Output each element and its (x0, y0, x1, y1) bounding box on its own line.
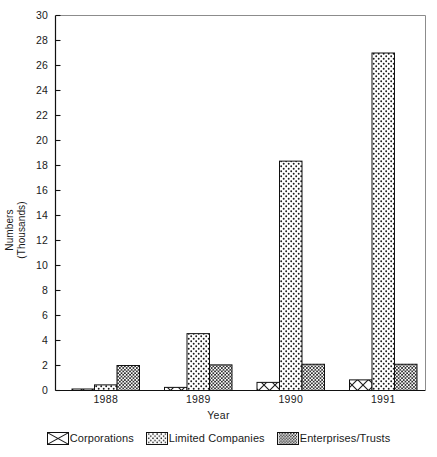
legend-swatch-limited-companies (146, 432, 168, 445)
x-tick-label: 1988 (76, 394, 136, 405)
y-tick-label: 20 (26, 135, 48, 146)
y-tick-label: 22 (26, 110, 48, 121)
bar-enterprises-trusts-1988 (117, 366, 140, 391)
y-axis-ticks (56, 16, 61, 391)
y-tick-label: 8 (26, 285, 48, 296)
bar-series-group (72, 53, 417, 391)
y-tick-label: 24 (26, 85, 48, 96)
x-tick-label: 1990 (261, 394, 321, 405)
legend-label-enterprises-trusts: Enterprises/Trusts (299, 432, 391, 445)
y-tick-label: 0 (26, 385, 48, 396)
axis-frame (56, 16, 426, 391)
bar-enterprises-trusts-1989 (210, 365, 233, 391)
legend-label-corporations: Corporations (69, 432, 134, 445)
bar-enterprises-trusts-1991 (395, 364, 418, 390)
y-tick-label: 4 (26, 335, 48, 346)
y-tick-label: 26 (26, 60, 48, 71)
y-tick-label: 30 (26, 10, 48, 21)
legend-swatch-enterprises-trusts (277, 432, 299, 445)
y-tick-label: 2 (26, 360, 48, 371)
bar-enterprises-trusts-1990 (302, 364, 325, 390)
legend-label-limited-companies: Limited Companies (168, 432, 265, 445)
y-tick-label: 18 (26, 160, 48, 171)
legend-item-limited-companies: Limited Companies (146, 432, 265, 445)
x-axis-title: Year (0, 409, 437, 421)
y-tick-label: 6 (26, 310, 48, 321)
bar-limited-companies-1991 (372, 53, 395, 391)
y-tick-label: 14 (26, 210, 48, 221)
bar-corporations-1991 (350, 380, 373, 391)
y-tick-label: 16 (26, 185, 48, 196)
x-tick-label: 1991 (353, 394, 413, 405)
bar-corporations-1990 (257, 382, 280, 390)
legend-item-corporations: Corporations (47, 432, 134, 445)
legend-swatch-corporations (47, 432, 69, 445)
chart-legend: Corporations Limited Companies Enterpris… (0, 432, 437, 445)
bar-limited-companies-1990 (280, 161, 303, 390)
bar-corporations-1989 (165, 387, 188, 390)
plot-area (0, 0, 437, 457)
bar-corporations-1988 (72, 389, 95, 391)
y-tick-label: 28 (26, 35, 48, 46)
legend-item-enterprises-trusts: Enterprises/Trusts (277, 432, 391, 445)
x-tick-label: 1989 (168, 394, 228, 405)
y-tick-label: 12 (26, 235, 48, 246)
bar-chart-figure: Numbers (Thousands) (0, 0, 437, 457)
y-tick-label: 10 (26, 260, 48, 271)
bar-limited-companies-1989 (187, 334, 210, 391)
bar-limited-companies-1988 (95, 385, 118, 391)
